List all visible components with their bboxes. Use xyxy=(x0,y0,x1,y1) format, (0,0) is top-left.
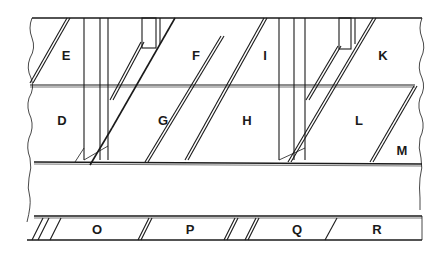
region-label-M: M xyxy=(397,144,408,157)
region-label-H: H xyxy=(242,114,251,127)
region-label-K: K xyxy=(378,49,387,62)
line-drawing xyxy=(0,0,443,256)
region-label-R: R xyxy=(372,223,381,236)
region-label-Q: Q xyxy=(292,223,302,236)
diagram-canvas: E F I K D G H L M O P Q R xyxy=(0,0,443,256)
region-label-F: F xyxy=(192,49,200,62)
region-label-P: P xyxy=(186,223,195,236)
region-label-G: G xyxy=(158,114,168,127)
region-label-L: L xyxy=(355,114,363,127)
region-label-E: E xyxy=(62,49,71,62)
region-label-O: O xyxy=(92,223,102,236)
region-label-D: D xyxy=(57,114,66,127)
region-label-I: I xyxy=(263,49,267,62)
